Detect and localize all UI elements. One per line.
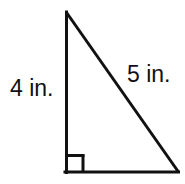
dimension-label-vertical-leg: 4 in. bbox=[10, 77, 53, 100]
dimension-label-hypotenuse: 5 in. bbox=[127, 63, 170, 86]
right-triangle-figure: 4 in. 5 in. bbox=[0, 0, 185, 184]
